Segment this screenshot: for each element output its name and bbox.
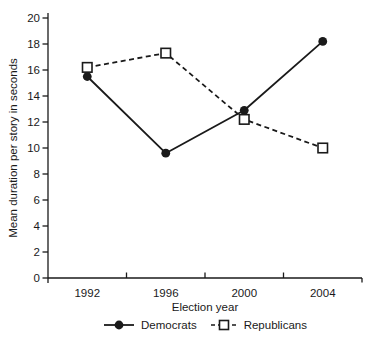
democrats-line-marker-icon	[103, 319, 135, 331]
legend-label-republicans: Republicans	[244, 319, 307, 331]
y-tick-label: 4	[34, 220, 41, 232]
x-tick-label: 2000	[231, 287, 257, 299]
x-tick-label: 1992	[74, 287, 100, 299]
legend-label-democrats: Democrats	[141, 319, 197, 331]
x-tick-label: 2004	[310, 287, 336, 299]
democrats-line	[87, 41, 323, 153]
republicans-line	[87, 53, 323, 148]
republicans-point-2004	[318, 143, 328, 153]
x-tick-label: 1996	[153, 287, 179, 299]
democrats-point-2004	[318, 37, 327, 46]
republicans-point-1996	[161, 48, 171, 58]
y-tick-label: 20	[27, 12, 40, 24]
legend-item-republicans: Republicans	[210, 319, 307, 331]
y-tick-label: 16	[27, 64, 40, 76]
chart-legend: Democrats Republicans	[48, 319, 362, 331]
x-axis-title: Election year	[48, 301, 362, 313]
y-tick-label: 0	[34, 272, 40, 284]
y-tick-label: 2	[34, 246, 40, 258]
republicans-line-marker-icon	[210, 319, 238, 331]
legend-item-democrats: Democrats	[103, 319, 197, 331]
line-chart-figure: 024681012141618201992199620002004 Mean d…	[0, 0, 374, 345]
y-tick-label: 10	[27, 142, 40, 154]
democrats-point-1996	[161, 149, 170, 158]
y-tick-label: 18	[27, 38, 40, 50]
y-tick-label: 14	[27, 90, 40, 102]
democrats-point-2000	[240, 106, 249, 115]
republicans-point-2000	[240, 115, 250, 125]
y-tick-label: 8	[34, 168, 40, 180]
chart-canvas: 024681012141618201992199620002004	[0, 0, 374, 345]
y-tick-label: 12	[27, 116, 40, 128]
republicans-point-1992	[83, 63, 93, 73]
y-axis-title: Mean duration per story in seconds	[7, 38, 21, 258]
democrats-point-1992	[83, 72, 92, 81]
y-tick-label: 6	[34, 194, 40, 206]
